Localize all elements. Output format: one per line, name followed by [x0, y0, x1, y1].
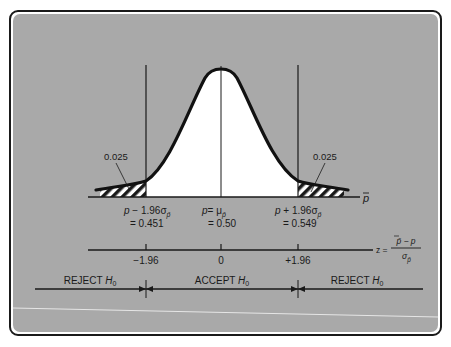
accept-label: ACCEPT H0	[195, 275, 249, 287]
upper-limit-value: = 0.549	[283, 218, 317, 229]
mean-value: = 0.50	[208, 218, 237, 229]
panel-highlight-line	[13, 308, 438, 317]
arrow-accept-left-end	[146, 286, 153, 292]
z-tick-left-label: −1.96	[133, 255, 159, 266]
acceptance-area	[146, 69, 298, 197]
upper-limit-expression: p + 1.96σp̄	[274, 205, 322, 219]
mean-expression: p= μp̄	[201, 205, 226, 219]
arrow-accept-right-end	[291, 286, 298, 292]
left-tail-label: 0.025	[104, 151, 128, 162]
arrow-reject-right-end	[298, 286, 305, 292]
reject-left-label: REJECT H0	[64, 275, 117, 287]
z-tick-center-label: 0	[218, 255, 224, 266]
arrow-reject-left-end	[139, 286, 146, 292]
normal-distribution-diagram: p 0.025 0.025 p − 1.96σp̄ = 0.451 p= μp̄…	[0, 0, 451, 347]
right-tail-label: 0.025	[313, 151, 337, 162]
z-formula-numerator: p̄ − p	[395, 236, 415, 246]
z-formula-denominator: σp̄	[402, 251, 411, 264]
lower-limit-expression: p − 1.96σp̄	[123, 205, 171, 219]
pbar-axis-label: p	[362, 192, 369, 204]
z-tick-right-label: +1.96	[285, 255, 311, 266]
reject-right-label: REJECT H0	[331, 275, 384, 287]
lower-limit-value: = 0.451	[130, 218, 164, 229]
z-formula-label: z =	[376, 245, 388, 255]
